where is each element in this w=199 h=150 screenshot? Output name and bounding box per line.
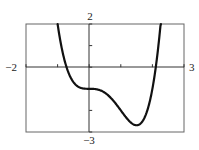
function-plot: −2 3 2 −3 [0, 0, 199, 150]
viewing-window-frame [26, 24, 184, 132]
y-min-label: −3 [83, 134, 95, 146]
x-max-label: 3 [189, 61, 195, 73]
axis-ticks [26, 24, 184, 132]
x-min-label: −2 [5, 61, 17, 73]
function-curve [58, 24, 161, 125]
y-max-label: 2 [87, 10, 93, 22]
